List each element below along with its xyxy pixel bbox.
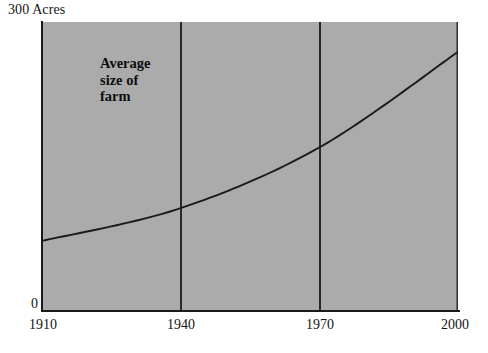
x-tick-label-1940: 1940 [151,316,211,334]
farm-size-chart: 300 Acres 0 Average size of farm 1910 19… [0,0,488,353]
series-annotation-line-1: Average [100,55,150,72]
y-axis-min-label: 0 [26,296,38,312]
y-axis-line [41,21,43,312]
x-tick-label-1970: 1970 [290,316,350,334]
series-annotation: Average size of farm [100,55,150,105]
x-tick-label-1910: 1910 [13,316,73,334]
x-tick-label-2000: 2000 [425,316,485,334]
series-annotation-line-3: farm [100,88,150,105]
y-axis-max-label: 300 Acres [8,2,65,18]
x-axis-tick-labels: 1910 1940 1970 2000 [0,316,488,340]
x-axis-line [41,310,460,312]
series-annotation-line-2: size of [100,72,150,89]
plot-area: Average size of farm [43,22,458,311]
